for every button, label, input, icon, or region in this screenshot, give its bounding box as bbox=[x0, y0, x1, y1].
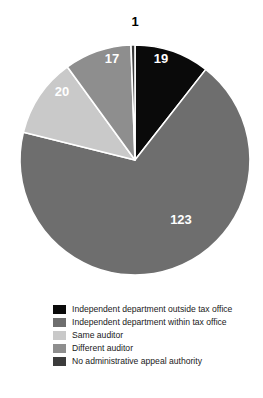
pie-plot-area: 1912320171 bbox=[0, 0, 263, 300]
chart-legend: Independent department outside tax offic… bbox=[53, 303, 258, 368]
legend-item-no-administrative-appeal-authority[interactable]: No administrative appeal authority bbox=[53, 355, 258, 368]
legend-item-same-auditor[interactable]: Same auditor bbox=[53, 329, 258, 342]
legend-item-independent-department-within-tax-office[interactable]: Independent department within tax office bbox=[53, 316, 258, 329]
legend-swatch-icon bbox=[53, 344, 66, 353]
pie-slice-value-label: 123 bbox=[170, 212, 192, 227]
legend-item-label: Independent department outside tax offic… bbox=[72, 303, 232, 316]
legend-swatch-icon bbox=[53, 305, 66, 314]
pie-chart-figure: 1912320171 Independent department outsid… bbox=[0, 0, 263, 398]
legend-item-label: Independent department within tax office bbox=[72, 316, 227, 329]
legend-swatch-icon bbox=[53, 357, 66, 366]
legend-item-independent-department-outside-tax-office[interactable]: Independent department outside tax offic… bbox=[53, 303, 258, 316]
pie-slice-value-label: 19 bbox=[154, 51, 168, 66]
legend-item-label: Same auditor bbox=[72, 329, 123, 342]
legend-swatch-icon bbox=[53, 331, 66, 340]
legend-item-label: Different auditor bbox=[72, 342, 133, 355]
pie-slice-group bbox=[20, 45, 250, 275]
legend-swatch-icon bbox=[53, 318, 66, 327]
legend-item-different-auditor[interactable]: Different auditor bbox=[53, 342, 258, 355]
pie-svg: 1912320171 bbox=[0, 0, 263, 300]
pie-slice-value-label: 17 bbox=[105, 51, 119, 66]
pie-slice-value-label: 1 bbox=[131, 14, 138, 29]
pie-slice-value-label: 20 bbox=[55, 84, 69, 99]
legend-item-label: No administrative appeal authority bbox=[72, 355, 202, 368]
